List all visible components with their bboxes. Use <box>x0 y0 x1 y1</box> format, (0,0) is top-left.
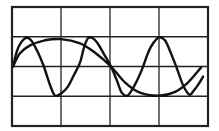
series-line-slow-wave <box>13 39 201 96</box>
waveform-chart <box>0 0 219 131</box>
